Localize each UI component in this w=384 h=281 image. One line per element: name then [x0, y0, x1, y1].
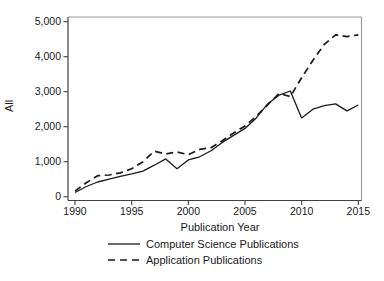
series-line-solid	[75, 91, 358, 193]
x-tick-label: 2000	[177, 205, 201, 217]
legend: Computer Science Publications Applicatio…	[108, 238, 299, 266]
y-tick-label: 2,000	[35, 120, 61, 132]
x-axis-ticks: 199019952000200520102015	[63, 201, 370, 217]
y-axis-title: All	[3, 100, 15, 112]
y-tick-label: 4,000	[35, 50, 61, 62]
x-tick-label: 2010	[290, 205, 314, 217]
y-axis-ticks: 01,0002,0003,0004,0005,000	[35, 15, 68, 202]
y-tick-label: 3,000	[35, 85, 61, 97]
y-tick-label: 1,000	[35, 155, 61, 167]
series-line-dashed	[75, 35, 358, 191]
x-tick-label: 1990	[63, 205, 87, 217]
legend-label-computer-science: Computer Science Publications	[146, 238, 299, 250]
legend-label-application: Application Publications	[146, 254, 263, 266]
x-tick-label: 1995	[120, 205, 144, 217]
x-tick-label: 2015	[347, 205, 371, 217]
y-tick-label: 5,000	[35, 15, 61, 27]
y-tick-label: 0	[55, 190, 61, 202]
figure-canvas: 01,0002,0003,0004,0005,000 1990199520002…	[0, 0, 384, 281]
x-axis-title: Publication Year	[181, 221, 260, 233]
x-tick-label: 2005	[233, 205, 257, 217]
data-series	[75, 35, 358, 193]
line-chart: 01,0002,0003,0004,0005,000 1990199520002…	[0, 0, 384, 281]
